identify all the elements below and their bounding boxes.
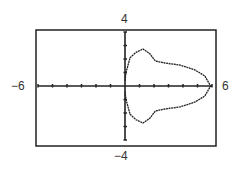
x-min-label: −6 [11,80,25,92]
y-max-label: 4 [121,13,128,25]
plot-area [0,0,238,171]
axes [38,32,212,140]
x-max-label: 6 [222,80,229,92]
y-min-label: −4 [114,150,128,162]
window-frame [36,30,216,146]
